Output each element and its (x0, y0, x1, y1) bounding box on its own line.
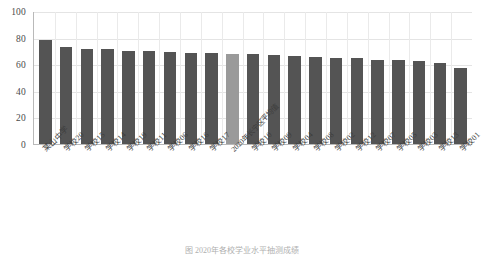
bar-slot (35, 12, 56, 144)
bar-slot (97, 12, 118, 144)
x-label-slot: 学校08 (305, 146, 326, 212)
bar-slot (409, 12, 430, 144)
x-label-slot: 学校10 (242, 146, 263, 212)
bar-slot (139, 12, 160, 144)
bar-slot (367, 12, 388, 144)
plot-wrapper: 100806040200 某山中学学校20学校15学校14学校19学校11学校0… (0, 0, 484, 160)
x-label-slot: 学校09 (263, 146, 284, 212)
x-label-slot: 学校14 (96, 146, 117, 212)
bar (185, 53, 197, 144)
bar (309, 57, 321, 144)
y-tick-label: 100 (11, 7, 26, 17)
bar-slot (326, 12, 347, 144)
x-label-slot: 学校01 (450, 146, 471, 212)
x-axis-category-labels: 某山中学学校20学校15学校14学校19学校11学校06学校16学校172020… (33, 146, 472, 212)
bar-slot (222, 12, 243, 144)
bar-slot (180, 12, 201, 144)
bar (122, 51, 134, 144)
y-axis: 100806040200 (0, 8, 30, 148)
x-label-slot: 2020年长宁区平均值 (221, 146, 242, 212)
y-tick-label: 20 (16, 113, 26, 123)
x-label-slot: 学校06 (159, 146, 180, 212)
x-label-slot: 学校13 (429, 146, 450, 212)
bar (143, 51, 155, 144)
x-label-slot: 学校20 (55, 146, 76, 212)
bar (288, 56, 300, 144)
bar (81, 49, 93, 144)
bar (351, 58, 363, 144)
x-label-slot: 学校07 (367, 146, 388, 212)
bar-slot (201, 12, 222, 144)
bar (101, 49, 113, 144)
bar-chart-figure: 100806040200 某山中学学校20学校15学校14学校19学校11学校0… (0, 0, 484, 256)
x-label-slot: 学校11 (138, 146, 159, 212)
bar-slot (160, 12, 181, 144)
bar (413, 61, 425, 144)
x-label-slot: 学校16 (180, 146, 201, 212)
bar-slot (118, 12, 139, 144)
x-label-slot: 学校19 (117, 146, 138, 212)
x-label-slot: 学校02 (325, 146, 346, 212)
y-tick-label: 60 (16, 60, 26, 70)
x-label-slot: 学校12 (346, 146, 367, 212)
y-tick-label: 0 (21, 140, 26, 150)
bar-slot (346, 12, 367, 144)
x-label-slot: 学校03 (409, 146, 430, 212)
bar-slot (284, 12, 305, 144)
bar (330, 58, 342, 144)
x-label-slot: 学校04 (284, 146, 305, 212)
bar-slot (77, 12, 98, 144)
bar (205, 53, 217, 144)
bar (392, 60, 404, 144)
bar (39, 40, 51, 144)
x-label-slot: 学校05 (388, 146, 409, 212)
y-tick-label: 80 (16, 34, 26, 44)
bar (164, 52, 176, 144)
x-label-slot: 某山中学 (34, 146, 55, 212)
bar-slot (388, 12, 409, 144)
bar-slot (430, 12, 451, 144)
bar (268, 55, 280, 144)
x-label-slot: 学校15 (76, 146, 97, 212)
figure-caption: 图 2020年各校学业水平抽测成绩 (0, 246, 484, 256)
x-label-slot: 学校17 (201, 146, 222, 212)
y-tick-label: 40 (16, 87, 26, 97)
bar-slot (263, 12, 284, 144)
bar-slot (56, 12, 77, 144)
bar-slot (450, 12, 471, 144)
bar-average-highlight (226, 54, 238, 144)
bar-slot (305, 12, 326, 144)
